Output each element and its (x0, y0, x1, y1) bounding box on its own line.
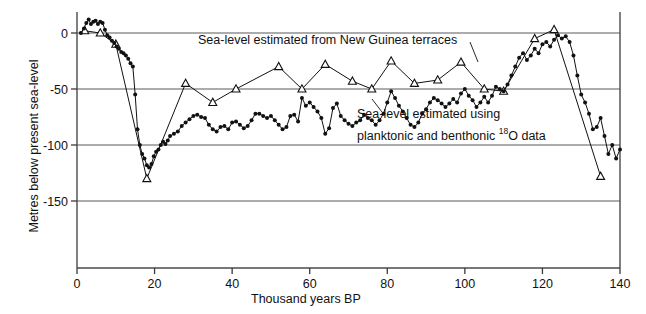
isotope-marker (350, 124, 354, 128)
terrace-marker (550, 25, 558, 32)
isotope-marker (187, 117, 191, 121)
isotope-marker (560, 37, 564, 41)
isotope-marker (529, 53, 533, 57)
isotope-marker (494, 85, 498, 89)
x-tick-label: 40 (225, 277, 239, 291)
isotope-marker (129, 61, 133, 65)
isotope-marker (250, 118, 254, 122)
isotope-marker (304, 104, 308, 108)
isotope-marker (509, 74, 513, 78)
terrace-marker (457, 58, 465, 65)
isotope-marker (339, 114, 343, 118)
isotope-marker (195, 113, 199, 117)
y-tick-label: -150 (43, 195, 68, 209)
isotope-marker (273, 118, 277, 122)
isotope-marker (117, 47, 121, 51)
terrace-marker (434, 76, 442, 83)
isotope-marker (614, 156, 618, 160)
isotope-marker (471, 98, 475, 102)
isotope-marker (131, 65, 135, 69)
isotope-marker (467, 94, 471, 98)
y-tick-label: -50 (50, 83, 68, 97)
y-axis-title: Metres below present sea-level (24, 56, 42, 236)
isotope-marker (459, 91, 463, 95)
isotope-marker (556, 33, 560, 37)
isotope-marker (393, 96, 397, 100)
isotope-marker (168, 134, 172, 138)
isotope-marker (490, 94, 494, 98)
isotope-marker (222, 124, 226, 128)
isotope-marker (140, 152, 144, 156)
isotope-marker (533, 47, 537, 51)
isotope-marker (184, 121, 188, 125)
isotope-marker (521, 51, 525, 55)
isotope-series-annotation: Sea-level estimated using planktonic and… (357, 104, 546, 145)
isotope-marker (451, 97, 455, 101)
isotope-marker (606, 152, 610, 156)
isotope-marker (564, 34, 568, 38)
isotope-marker (331, 106, 335, 110)
isotope-marker (203, 116, 207, 120)
isotope-marker (284, 125, 288, 129)
isotope-marker (84, 21, 88, 25)
terrace-marker (348, 77, 356, 84)
isotope-marker (343, 118, 347, 122)
isotope-marker (265, 116, 269, 120)
isotope-marker (234, 119, 238, 123)
terrace-marker (182, 79, 190, 86)
isotope-marker (82, 27, 86, 31)
terrace-marker (321, 60, 329, 67)
isotope-marker (389, 89, 393, 93)
isotope-marker (215, 130, 219, 134)
terrace-marker (275, 62, 283, 69)
isotope-marker (112, 41, 116, 45)
isotope-marker (436, 98, 440, 102)
isotope-marker (432, 96, 436, 100)
x-axis-title: Thousand years BP (251, 289, 361, 307)
isotope-marker (133, 93, 137, 97)
isotope-marker (230, 121, 234, 125)
isotope-marker (87, 18, 91, 22)
isotope-marker (579, 93, 583, 97)
isotope-marker (552, 38, 556, 42)
isotope-superscript: 18 (499, 126, 508, 136)
isotope-marker (548, 44, 552, 48)
isotope-marker (587, 112, 591, 116)
isotope-marker (525, 58, 529, 62)
isotope-marker (136, 127, 140, 131)
isotope-marker (269, 114, 273, 118)
isotope-marker (544, 40, 548, 44)
x-tick-label: 100 (454, 277, 475, 291)
isotope-marker (108, 35, 112, 39)
isotope-marker (513, 65, 517, 69)
isotope-marker (149, 162, 153, 166)
isotope-marker (575, 74, 579, 78)
isotope-marker (323, 132, 327, 136)
isotope-marker (300, 96, 304, 100)
isotope-marker (595, 125, 599, 129)
isotope-marker (199, 115, 203, 119)
isotope-marker (94, 19, 98, 23)
x-tick-label: 0 (74, 277, 81, 291)
isotope-marker (618, 147, 622, 151)
y-tick-label: 0 (61, 27, 68, 41)
isotope-marker (172, 132, 176, 136)
isotope-marker (281, 127, 285, 131)
isotope-marker (138, 143, 142, 147)
isotope-marker (583, 100, 587, 104)
isotope-marker (142, 156, 146, 160)
isotope-marker (166, 139, 170, 143)
isotope-marker (327, 126, 331, 130)
isotope-marker (226, 127, 230, 131)
terrace-marker (143, 174, 151, 181)
isotope-marker (152, 154, 156, 158)
x-tick-label: 140 (610, 277, 631, 291)
isotope-marker (101, 21, 105, 25)
isotope-marker (502, 89, 506, 93)
isotope-marker (238, 123, 242, 127)
isotope-marker (159, 143, 163, 147)
isotope-marker (292, 113, 296, 117)
annotation-leader (470, 42, 478, 62)
isotope-marker (180, 124, 184, 128)
chart-figure: 0-50-100-150020406080100120140 Thousand … (0, 0, 646, 314)
